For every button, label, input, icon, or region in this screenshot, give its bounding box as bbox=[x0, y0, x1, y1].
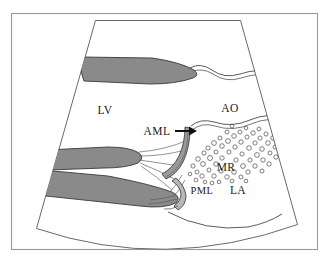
label-la: LA bbox=[230, 184, 246, 196]
label-lv: LV bbox=[97, 104, 112, 116]
label-mr: MR bbox=[217, 161, 236, 173]
label-ao: AO bbox=[221, 102, 238, 114]
echo-diagram-svg: LV AO AML MR PML LA bbox=[0, 0, 329, 263]
label-pml: PML bbox=[191, 185, 214, 196]
papillary-muscle bbox=[45, 147, 142, 170]
label-aml: AML bbox=[144, 125, 171, 137]
echo-figure: LV AO AML MR PML LA bbox=[0, 0, 329, 263]
